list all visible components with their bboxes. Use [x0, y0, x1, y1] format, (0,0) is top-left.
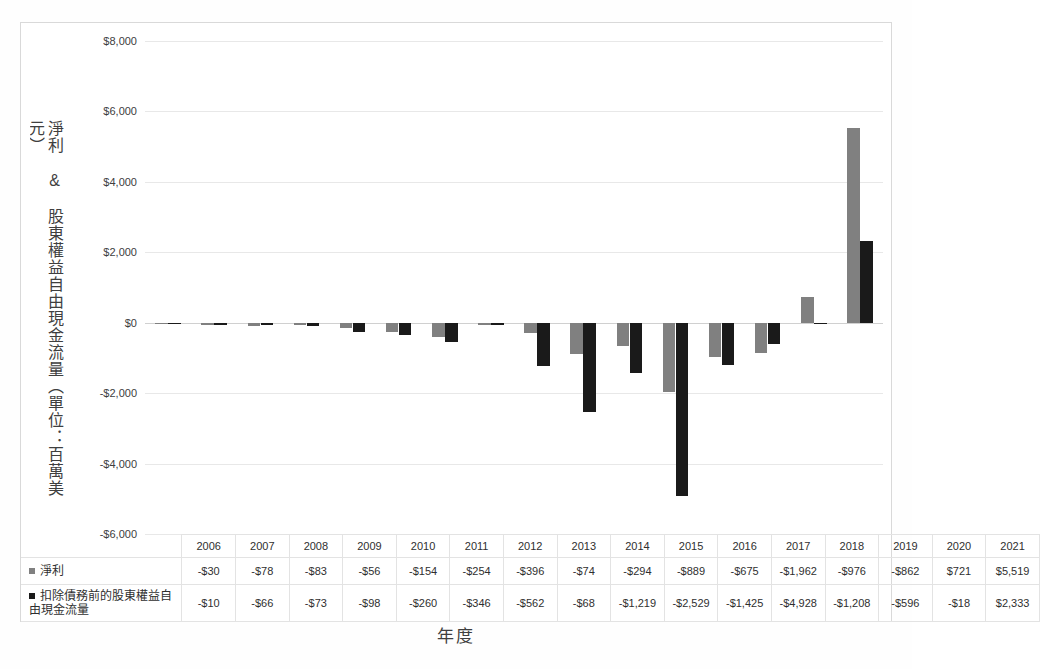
bar-fcf-2009	[307, 323, 320, 326]
table-col-header-2013: 2013	[557, 535, 611, 558]
y-axis-tick-labels: $8,000$6,000$4,000$2,000$0-$2,000-$4,000…	[60, 41, 145, 534]
table-col-header-2010: 2010	[396, 535, 450, 558]
bar-fcf-2021	[860, 241, 873, 323]
table-row: 淨利-$30-$78-$83-$56-$154-$254-$396-$74-$2…	[21, 558, 1039, 585]
table-cell: -$862	[879, 558, 933, 585]
bar-net-income-2006	[155, 323, 168, 324]
bar-fcf-2014	[537, 323, 550, 366]
table-cell: -$254	[450, 558, 504, 585]
table-cell: -$18	[932, 585, 986, 622]
table-cell: -$10	[182, 585, 236, 622]
table-col-header-2021: 2021	[986, 535, 1040, 558]
bar-net-income-2019	[755, 323, 768, 353]
table-cell: -$1,962	[771, 558, 825, 585]
bar-group-2008	[237, 41, 283, 534]
bar-net-income-2012	[432, 323, 445, 337]
y-tick-label: -$2,000	[100, 387, 137, 399]
y-axis-title: 淨利 & 股東權益自由現金流量（單位：百萬美元）	[30, 120, 64, 520]
table-cell: -$675	[718, 558, 772, 585]
bar-group-2021	[837, 41, 883, 534]
bar-group-2007	[191, 41, 237, 534]
bar-net-income-2017	[663, 323, 676, 392]
table-col-header-2015: 2015	[664, 535, 718, 558]
y-tick-label: $2,000	[103, 246, 137, 258]
table-col-header-2007: 2007	[235, 535, 289, 558]
table-col-header-2019: 2019	[879, 535, 933, 558]
bar-net-income-2018	[709, 323, 722, 357]
data-table: 2006200720082009201020112012201320142015…	[21, 534, 1040, 622]
table-col-header-2011: 2011	[450, 535, 504, 558]
table-cell: -$1,425	[718, 585, 772, 622]
legend-entry-fcf: 扣除債務前的股東權益自由現金流量	[21, 585, 182, 622]
bar-fcf-2008	[261, 323, 274, 326]
table-row: 扣除債務前的股東權益自由現金流量-$10-$66-$73-$98-$260-$3…	[21, 585, 1039, 622]
bar-net-income-2007	[201, 323, 214, 326]
table-col-header-2020: 2020	[932, 535, 986, 558]
table-cell: -$1,208	[825, 585, 879, 622]
table-cell: -$596	[879, 585, 933, 622]
bar-net-income-2020	[801, 297, 814, 322]
table-cell: $2,333	[986, 585, 1040, 622]
bar-fcf-2012	[445, 323, 458, 343]
bar-fcf-2020	[814, 323, 827, 324]
table-cell: -$98	[343, 585, 397, 622]
legend-entry-net-income: 淨利	[21, 558, 182, 585]
y-tick-label: $6,000	[103, 105, 137, 117]
bar-fcf-2013	[491, 323, 504, 325]
table-cell: -$260	[396, 585, 450, 622]
table-header-row: 2006200720082009201020112012201320142015…	[21, 535, 1039, 558]
table-cell: -$346	[450, 585, 504, 622]
y-tick-label: -$4,000	[100, 458, 137, 470]
plot-area	[145, 41, 883, 534]
table-cell: $5,519	[986, 558, 1040, 585]
bar-group-2015	[560, 41, 606, 534]
table-cell: -$66	[235, 585, 289, 622]
bar-net-income-2009	[294, 323, 307, 325]
table-col-header-2006: 2006	[182, 535, 236, 558]
bar-fcf-2015	[583, 323, 596, 412]
table-cell: -$78	[235, 558, 289, 585]
bar-group-2020	[791, 41, 837, 534]
bar-group-2010	[330, 41, 376, 534]
table-cell: -$4,928	[771, 585, 825, 622]
table-corner-cell	[21, 535, 182, 558]
table-cell: $721	[932, 558, 986, 585]
table-cell: -$2,529	[664, 585, 718, 622]
bar-group-2011	[376, 41, 422, 534]
table-col-header-2012: 2012	[503, 535, 557, 558]
table-cell: -$68	[557, 585, 611, 622]
table-cell: -$294	[611, 558, 665, 585]
bar-fcf-2010	[353, 323, 366, 332]
bar-group-2019	[745, 41, 791, 534]
bar-net-income-2010	[340, 323, 353, 328]
table-cell: -$74	[557, 558, 611, 585]
bar-net-income-2014	[524, 323, 537, 333]
table-cell: -$56	[343, 558, 397, 585]
gray-square-marker-icon	[29, 568, 35, 574]
y-tick-label: $4,000	[103, 176, 137, 188]
bar-fcf-2016	[630, 323, 643, 373]
bar-fcf-2011	[399, 323, 412, 335]
table-col-header-2014: 2014	[611, 535, 665, 558]
bar-fcf-2006	[168, 323, 181, 324]
bar-net-income-2021	[847, 128, 860, 322]
x-axis-title: 年度	[0, 622, 912, 647]
bar-net-income-2015	[570, 323, 583, 354]
bar-net-income-2013	[478, 323, 491, 326]
bar-group-2009	[283, 41, 329, 534]
table-cell: -$1,219	[611, 585, 665, 622]
bar-group-2018	[699, 41, 745, 534]
bar-fcf-2007	[214, 323, 227, 325]
black-square-marker-icon	[29, 593, 35, 599]
bar-net-income-2008	[248, 323, 261, 326]
table-cell: -$83	[289, 558, 343, 585]
table-col-header-2016: 2016	[718, 535, 772, 558]
table-cell: -$154	[396, 558, 450, 585]
table-col-header-2017: 2017	[771, 535, 825, 558]
table-cell: -$562	[503, 585, 557, 622]
bar-fcf-2017	[676, 323, 689, 497]
legend-label: 扣除債務前的股東權益自由現金流量	[29, 589, 172, 617]
legend-label: 淨利	[40, 564, 64, 578]
bar-group-2014	[514, 41, 560, 534]
